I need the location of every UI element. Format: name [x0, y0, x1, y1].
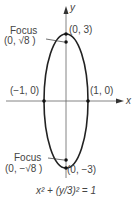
right-vertex-point	[86, 99, 90, 103]
left-vertex-label: (−1, 0)	[10, 86, 39, 96]
ellipse-equation: x² + (y/3)² = 1	[36, 186, 96, 196]
lower-focus-coords: (0, −√8 )	[5, 164, 42, 174]
bottom-vertex-label: (0, −3)	[67, 165, 96, 175]
y-axis-label: y	[70, 3, 75, 13]
upper-focus-point	[64, 40, 68, 44]
x-axis-label: x	[126, 96, 131, 106]
x-axis-arrow-icon	[116, 99, 124, 104]
left-vertex-point	[42, 99, 46, 103]
right-vertex-label: (1, 0)	[90, 86, 113, 96]
top-vertex-label: (0, 3)	[69, 25, 92, 35]
y-axis-arrow-icon	[64, 6, 69, 14]
upper-focus-coords: (0, √8 )	[4, 36, 36, 46]
lower-focus-point	[64, 158, 68, 162]
lower-focus-title: Focus	[14, 153, 41, 163]
top-vertex-point	[64, 32, 68, 36]
